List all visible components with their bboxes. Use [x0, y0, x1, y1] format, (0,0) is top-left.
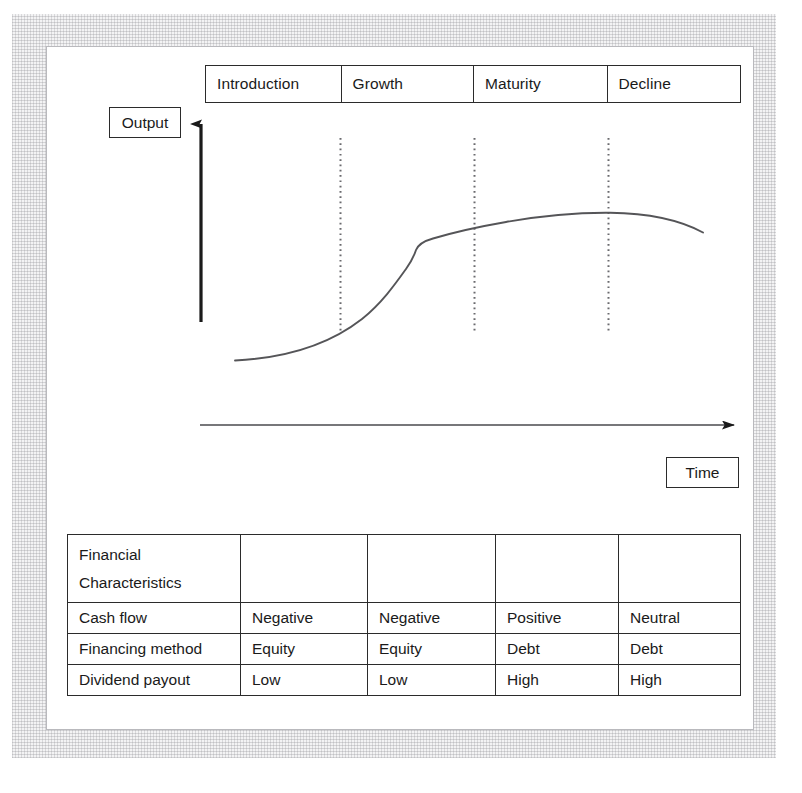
table-title-line-1: Financial — [79, 541, 240, 569]
cell-cash-flow-growth: Negative — [368, 603, 496, 634]
row-label-financing-method: Financing method — [68, 634, 241, 665]
cell-dividend-payout-growth: Low — [368, 665, 496, 696]
table-row: Dividend payout Low Low High High — [68, 665, 741, 696]
cell-cash-flow-introduction: Negative — [241, 603, 368, 634]
table-title-blank-3 — [496, 535, 619, 603]
table-row: Cash flow Negative Negative Positive Neu… — [68, 603, 741, 634]
cell-dividend-payout-maturity: High — [496, 665, 619, 696]
table-title-blank-4 — [619, 535, 741, 603]
output-curve — [235, 213, 703, 361]
cell-cash-flow-decline: Neutral — [619, 603, 741, 634]
row-label-cash-flow: Cash flow — [68, 603, 241, 634]
product-life-cycle-figure: Introduction Growth Maturity Decline Out… — [0, 0, 802, 793]
table-title-line-2: Characteristics — [79, 569, 240, 597]
table-row: Financing method Equity Equity Debt Debt — [68, 634, 741, 665]
cell-financing-method-decline: Debt — [619, 634, 741, 665]
cell-dividend-payout-introduction: Low — [241, 665, 368, 696]
table-title-blank-1 — [241, 535, 368, 603]
table-title-blank-2 — [368, 535, 496, 603]
cell-financing-method-maturity: Debt — [496, 634, 619, 665]
table-row-title: Financial Characteristics — [68, 535, 741, 603]
financial-characteristics-table: Financial Characteristics Cash flow Nega… — [67, 534, 741, 696]
cell-financing-method-introduction: Equity — [241, 634, 368, 665]
cell-dividend-payout-decline: High — [619, 665, 741, 696]
cell-cash-flow-maturity: Positive — [496, 603, 619, 634]
cell-financing-method-growth: Equity — [368, 634, 496, 665]
row-label-dividend-payout: Dividend payout — [68, 665, 241, 696]
table-title-cell: Financial Characteristics — [68, 535, 241, 603]
